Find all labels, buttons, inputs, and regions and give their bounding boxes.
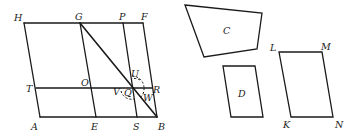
label-s: S	[133, 121, 140, 132]
label-f: F	[140, 11, 148, 22]
label-k: K	[282, 119, 291, 130]
label-a: A	[30, 121, 38, 132]
label-p: P	[118, 11, 126, 22]
line-ha	[24, 23, 40, 117]
diagram-canvas: H G P F T O U V Q W R A E S B C D L M K …	[0, 0, 357, 137]
label-l: L	[269, 42, 276, 53]
label-t: T	[26, 83, 33, 94]
parallelogram-klmn	[279, 52, 333, 117]
label-m: M	[320, 41, 331, 52]
geometry-diagram: H G P F T O U V Q W R A E S B C D L M K …	[0, 0, 357, 137]
label-h: H	[13, 12, 23, 23]
label-c: C	[223, 25, 231, 36]
label-b: B	[157, 121, 165, 132]
label-n: N	[334, 119, 344, 130]
label-g: G	[75, 11, 83, 22]
label-o: O	[81, 77, 89, 88]
line-ge	[80, 23, 96, 117]
label-d: D	[237, 88, 246, 99]
label-v: V	[113, 86, 121, 97]
label-u: U	[131, 68, 140, 79]
label-e: E	[90, 121, 98, 132]
label-r: R	[152, 84, 160, 95]
label-q: Q	[124, 87, 132, 98]
